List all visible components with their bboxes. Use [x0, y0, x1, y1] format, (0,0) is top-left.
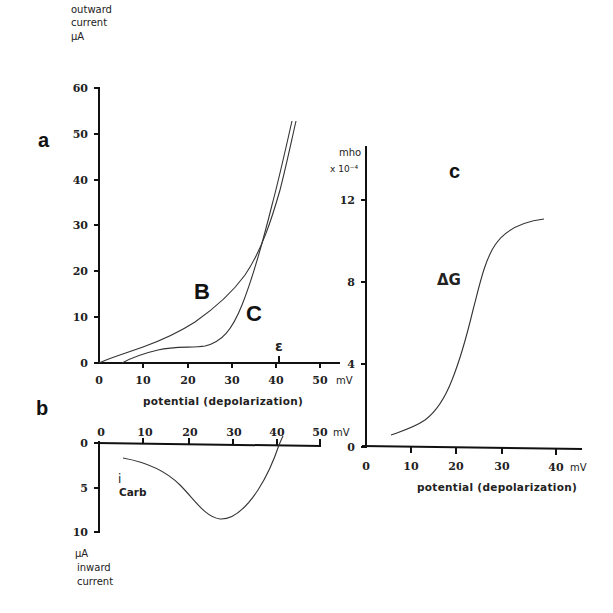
svg-text:60: 60: [73, 82, 89, 95]
epsilon-label: ε: [275, 338, 283, 354]
svg-text:10: 10: [73, 311, 89, 324]
curve-b: [99, 121, 296, 363]
curve-c-label: C: [246, 301, 262, 326]
svg-text:10: 10: [137, 426, 153, 439]
panel-c-x-axis: [362, 446, 582, 449]
svg-text:50: 50: [312, 374, 328, 387]
svg-text:4: 4: [347, 358, 355, 371]
svg-text:5: 5: [80, 482, 88, 495]
svg-text:30: 30: [494, 460, 510, 473]
panel-a-xlabel: potential (depolarization): [143, 395, 303, 407]
svg-text:mV: mV: [570, 462, 587, 473]
svg-text:30: 30: [224, 374, 240, 387]
svg-text:20: 20: [73, 265, 89, 278]
svg-text:40: 40: [268, 374, 284, 387]
svg-text:0: 0: [97, 426, 105, 439]
i-carb-label-sub: Carb: [119, 486, 147, 498]
panel-a-ylabel-line1: outward: [71, 4, 112, 15]
figure-canvas: a outward current µA 0 10 20 30 40 50 60…: [0, 0, 613, 613]
svg-text:30: 30: [73, 219, 89, 232]
panel-a-x-ticks: 0 10 20 30 40 50 mV: [95, 363, 353, 387]
svg-text:mV: mV: [336, 375, 353, 386]
panel-b-label: b: [36, 397, 48, 419]
curve-i-carb: [123, 436, 283, 519]
svg-text:0: 0: [362, 460, 370, 473]
panel-b-x-axis: [97, 443, 321, 446]
curve-delta-g: [391, 219, 544, 435]
svg-text:0: 0: [80, 437, 88, 450]
panel-c-y-ticks: 0 4 8 12: [340, 194, 366, 454]
curve-b-label: B: [194, 279, 210, 304]
svg-text:20: 20: [182, 426, 198, 439]
panel-b: b 0 10 20 30 40 50 mV 0 5 10 µA inward c…: [36, 397, 350, 587]
svg-text:20: 20: [180, 374, 196, 387]
svg-text:30: 30: [226, 426, 242, 439]
panel-b-ylabel-line2: current: [77, 576, 113, 587]
svg-text:50: 50: [312, 426, 328, 439]
panel-c-ylabel-line2: x 10⁻⁴: [330, 164, 358, 174]
svg-text:10: 10: [403, 460, 419, 473]
panel-c-ylabel-line1: mho: [339, 147, 361, 158]
panel-a-ylabel-line2: current: [71, 17, 107, 28]
svg-text:0: 0: [347, 441, 355, 454]
panel-a-ylabel-unit: µA: [71, 31, 84, 42]
panel-c-xlabel: potential (depolarization): [417, 481, 577, 493]
panel-c: mho x 10⁻⁴ c 0 4 8 12 0 10 20 30 40 mV p…: [330, 146, 587, 493]
svg-text:0: 0: [95, 374, 103, 387]
svg-text:40: 40: [73, 174, 89, 187]
svg-text:12: 12: [340, 194, 355, 207]
curve-c: [122, 121, 292, 363]
svg-text:50: 50: [73, 128, 89, 141]
svg-text:10: 10: [73, 526, 89, 539]
panel-b-ylabel-unit: µA: [75, 548, 88, 559]
panel-c-label: c: [449, 160, 460, 182]
i-carb-label-main: i: [118, 472, 121, 486]
panel-b-ylabel-line1: inward: [77, 562, 111, 573]
svg-text:10: 10: [135, 374, 151, 387]
panel-c-x-ticks: 0 10 20 30 40 mV: [362, 447, 587, 474]
svg-text:mV: mV: [333, 427, 350, 438]
svg-text:0: 0: [80, 357, 88, 370]
svg-text:20: 20: [448, 460, 464, 473]
delta-g-label: ΔG: [437, 271, 461, 289]
svg-text:8: 8: [347, 276, 355, 289]
svg-text:40: 40: [548, 461, 564, 474]
panel-b-y-ticks: 0 5 10: [73, 437, 99, 539]
panel-a-y-ticks: 0 10 20 30 40 50 60: [73, 82, 99, 370]
panel-a: a outward current µA 0 10 20 30 40 50 60…: [38, 4, 353, 407]
panel-a-label: a: [38, 129, 50, 151]
